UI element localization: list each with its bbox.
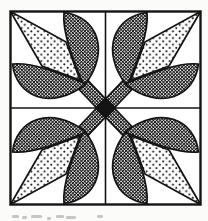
scanned-page bbox=[0, 0, 208, 221]
quilt-block-illustration bbox=[0, 0, 208, 221]
